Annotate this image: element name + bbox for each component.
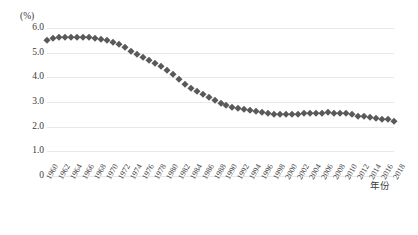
y-axis-tick-label: 6.0 xyxy=(4,23,44,33)
gridline xyxy=(47,77,394,78)
y-axis-unit-label: (%) xyxy=(20,11,34,21)
data-point-marker xyxy=(122,44,128,50)
y-axis-tick-label: 0 xyxy=(4,171,44,181)
y-axis-tick-label: 5.0 xyxy=(4,48,44,58)
gridline xyxy=(47,127,394,128)
data-point-marker xyxy=(175,75,181,81)
data-point-marker xyxy=(181,81,187,87)
data-point-marker xyxy=(157,63,163,69)
x-axis-title: 年份 xyxy=(370,178,390,192)
y-axis-tick-label: 2.0 xyxy=(4,122,44,132)
y-axis-tick-label: 3.0 xyxy=(4,97,44,107)
chart-container: (%) 01.02.03.04.05.06.0 1960196219641966… xyxy=(0,0,418,235)
plot-area xyxy=(47,28,394,176)
y-axis-tick-label: 4.0 xyxy=(4,72,44,82)
data-point-marker xyxy=(391,117,397,123)
y-axis-tick-labels: 01.02.03.04.05.06.0 xyxy=(0,28,44,176)
x-axis-tick-labels: 1960196219641966196819701972197419761978… xyxy=(47,177,394,235)
data-point-marker xyxy=(385,116,391,122)
gridline xyxy=(47,53,394,54)
y-axis-tick-label: 1.0 xyxy=(4,146,44,156)
data-point-marker xyxy=(169,70,175,76)
gridline xyxy=(47,151,394,152)
gridline xyxy=(47,28,394,29)
data-point-marker xyxy=(163,67,169,73)
data-point-marker xyxy=(98,35,104,41)
